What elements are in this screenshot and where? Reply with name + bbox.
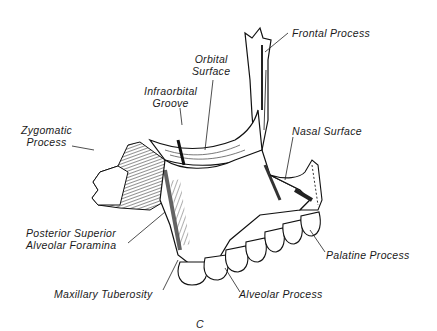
leader-orbital-surface xyxy=(205,80,213,150)
label-infraorbital-groove-line2: Groove xyxy=(144,97,197,109)
leader-nasal-surface xyxy=(285,137,293,180)
label-frontal-process: Frontal Process xyxy=(292,27,370,39)
label-orbital-surface-line1: Orbital xyxy=(192,53,230,65)
label-maxillary-tuberosity: Maxillary Tuberosity xyxy=(54,288,153,300)
leader-maxillary-tuberosity xyxy=(163,260,178,290)
label-psaf-line1: Posterior Superior xyxy=(26,227,116,239)
label-palatine-process: Palatine Process xyxy=(326,249,410,261)
label-alveolar-process: Alveolar Process xyxy=(239,288,323,300)
label-zygomatic-process-line1: Zygomatic xyxy=(21,124,72,136)
label-orbital-surface-line2: Surface xyxy=(192,65,230,77)
maxilla-illustration xyxy=(0,0,437,331)
label-zygomatic-process-line2: Process xyxy=(21,136,72,148)
label-psaf-line2: Alveolar Foramina xyxy=(26,239,116,251)
label-infraorbital-groove-line1: Infraorbital xyxy=(144,85,197,97)
leader-posterior-superior-alveolar-foramina xyxy=(128,212,165,243)
label-orbital-surface: Orbital Surface xyxy=(192,53,230,77)
leader-zygomatic-process xyxy=(72,146,94,150)
leader-palatine-process xyxy=(310,230,325,252)
label-posterior-superior-alveolar-foramina: Posterior Superior Alveolar Foramina xyxy=(26,227,116,251)
label-nasal-surface: Nasal Surface xyxy=(292,125,362,137)
label-infraorbital-groove: Infraorbital Groove xyxy=(144,85,197,109)
panel-letter: C xyxy=(196,318,204,330)
label-zygomatic-process: Zygomatic Process xyxy=(21,124,72,148)
leader-infraorbital-groove xyxy=(180,108,182,125)
